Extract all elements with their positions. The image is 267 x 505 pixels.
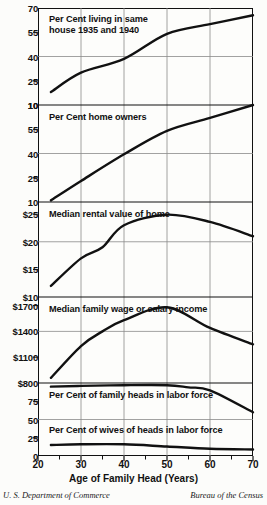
y-tick-label: 55 bbox=[28, 28, 38, 37]
y-tick-label: $1100 bbox=[13, 353, 38, 362]
y-tick-label: 10 bbox=[28, 101, 38, 110]
y-tick-label: 25 bbox=[28, 173, 38, 182]
panel-caption-2: Per Cent home owners bbox=[49, 112, 147, 123]
panel-caption-6: Per Cent of wives of heads in labor forc… bbox=[49, 425, 223, 436]
x-tick-label: 60 bbox=[195, 459, 225, 470]
x-axis-title: Age of Family Head (Years) bbox=[0, 473, 267, 484]
y-tick-label: $1700 bbox=[13, 301, 38, 310]
y-tick-label: 40 bbox=[28, 52, 38, 61]
y-tick-label: $15 bbox=[23, 265, 38, 274]
panel-caption-1: Per Cent living in samehouse 1935 and 19… bbox=[49, 14, 148, 36]
y-tick-label: 75 bbox=[28, 397, 38, 406]
y-tick-label: 50 bbox=[28, 415, 38, 424]
y-tick-label: 55 bbox=[28, 125, 38, 134]
credit-department: U. S. Department of Commerce bbox=[3, 490, 110, 500]
y-tick-label: $1400 bbox=[13, 327, 38, 336]
x-tick-label: 20 bbox=[23, 459, 53, 470]
y-tick-label: 70 bbox=[28, 4, 38, 13]
census-family-head-chart: 70554025101055402510$25$20$15$10$1700$14… bbox=[0, 0, 267, 505]
credit-bureau: Bureau of the Census bbox=[190, 490, 263, 500]
y-tick-label: $800 bbox=[18, 379, 38, 388]
y-tick-label: 25 bbox=[28, 433, 38, 442]
x-tick-label: 30 bbox=[66, 459, 96, 470]
panel-caption-5: Per Cent of family heads in labor force bbox=[49, 390, 213, 401]
y-tick-label: 25 bbox=[28, 76, 38, 85]
x-tick-label: 40 bbox=[109, 459, 139, 470]
x-tick-label: 70 bbox=[238, 459, 267, 470]
panel-caption-1-line2: house 1935 and 1940 bbox=[49, 25, 148, 36]
y-tick-label: $20 bbox=[23, 237, 38, 246]
x-tick-label: 50 bbox=[152, 459, 182, 470]
panel-caption-3: Median rental value of home bbox=[49, 209, 170, 220]
y-tick-label: $25 bbox=[23, 210, 38, 219]
y-tick-label: 10 bbox=[28, 198, 38, 207]
panel-caption-4: Median family wage or salary income bbox=[49, 304, 207, 315]
y-tick-label: 40 bbox=[28, 149, 38, 158]
